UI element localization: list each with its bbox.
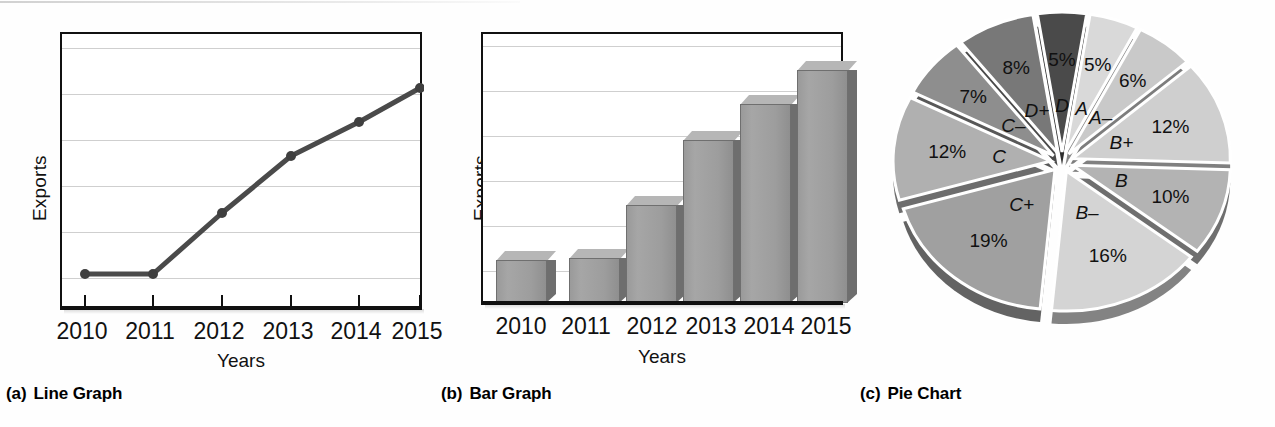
caption-bar-graph: (b)Bar Graph: [441, 384, 552, 404]
x-axis-baseline: [60, 306, 422, 310]
pie-slice-label: D: [1055, 95, 1069, 116]
gridline: [483, 91, 841, 92]
bar-2010: [496, 251, 556, 303]
x-tick-label: 2011: [114, 318, 186, 345]
caption-line-graph: (a)Line Graph: [6, 384, 122, 404]
pie-slice-label: C–: [1001, 115, 1026, 136]
line-x-axis-title: Years: [60, 350, 422, 372]
caption-title: Bar Graph: [469, 384, 551, 403]
pie-percent-label: 16%: [1089, 245, 1127, 266]
pie-percent-label: 5%: [1084, 54, 1112, 75]
panel-pie-chart: 5%D5%A6%A–12%B+10%B16%B–19%C+12%C7%C–8%D…: [860, 0, 1275, 427]
pie-slice-label: A: [1074, 98, 1088, 119]
pie-slice-label: B–: [1075, 202, 1099, 223]
pie-percent-label: 10%: [1151, 186, 1189, 207]
line-series-svg: [62, 34, 424, 312]
bar-front-face: [740, 104, 791, 303]
data-point: [148, 269, 158, 279]
bar-front-face: [683, 140, 734, 303]
caption-title: Line Graph: [33, 384, 122, 403]
pie-percent-label: 12%: [928, 141, 966, 162]
x-tick-label: 2012: [183, 318, 255, 345]
x-tick-label: 2010: [46, 318, 118, 345]
line-plot-frame: [60, 32, 422, 310]
pie-slice-label: C: [992, 146, 1006, 167]
x-axis-baseline: [481, 301, 843, 305]
bar-2012: [626, 196, 686, 303]
pie-percent-label: 8%: [1002, 57, 1030, 78]
bar-front-face: [626, 205, 677, 303]
caption-index: (c): [860, 384, 880, 403]
bar-plot-frame: [481, 32, 843, 305]
bar-front-face: [569, 258, 620, 303]
pie-slice-label: B+: [1110, 132, 1134, 153]
panel-bar-graph: Exports: [440, 0, 860, 427]
x-tick-label: 2011: [552, 313, 620, 340]
pie-slice-label: A–: [1088, 107, 1113, 128]
data-point: [80, 269, 90, 279]
bar-2011: [569, 249, 629, 303]
pie-percent-label: 5%: [1048, 49, 1076, 70]
x-tick-label: 2012: [618, 313, 686, 340]
pie-percent-label: 19%: [970, 230, 1008, 251]
pie-slice-label: B: [1115, 170, 1128, 191]
bar-x-axis-title: Years: [481, 346, 843, 368]
bar-2014: [740, 95, 800, 303]
line-y-axis-title: Exports: [29, 121, 51, 221]
x-tick-label: 2015: [792, 313, 860, 340]
x-tick-label: 2013: [252, 318, 324, 345]
data-point: [286, 151, 296, 161]
bar-x-tick-labels: 2010 2011 2012 2013 2014 2015: [481, 313, 843, 341]
pie-slice-label: D+: [1025, 100, 1050, 121]
bar-2015: [797, 61, 857, 303]
gridline: [483, 46, 841, 47]
data-point: [354, 117, 364, 127]
caption-index: (b): [441, 384, 462, 403]
x-tick-label: 2010: [487, 313, 555, 340]
pie-slice-label: C+: [1009, 194, 1034, 215]
caption-title: Pie Chart: [887, 384, 961, 403]
caption-index: (a): [6, 384, 26, 403]
caption-pie-chart: (c)Pie Chart: [860, 384, 961, 404]
pie-percent-label: 12%: [1151, 116, 1189, 137]
pie-percent-label: 7%: [959, 86, 987, 107]
line-x-tick-labels: 2010 2011 2012 2013 2014 2015: [60, 318, 422, 346]
bar-side-face: [546, 260, 556, 303]
figure-root: Exports: [0, 0, 1275, 427]
data-point: [217, 208, 227, 218]
pie-percent-label: 6%: [1119, 70, 1147, 91]
bar-front-face: [496, 260, 547, 303]
bar-front-face: [797, 70, 848, 303]
pie-chart-svg: 5%D5%A6%A–12%B+10%B16%B–19%C+12%C7%C–8%D…: [860, 0, 1275, 345]
bar-2013: [683, 131, 743, 303]
line-series-path: [85, 88, 420, 274]
panel-line-graph: Exports: [0, 0, 440, 427]
bar-side-face: [847, 70, 857, 303]
